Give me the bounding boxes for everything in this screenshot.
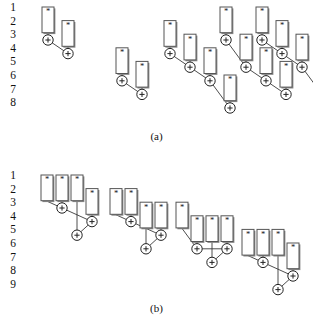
- mul-box-label: *: [225, 215, 229, 225]
- mul-box-label: *: [168, 20, 172, 30]
- mul-box-label: *: [46, 6, 50, 16]
- mul-box-label: *: [244, 34, 248, 44]
- panel-a-diagram: ****************: [0, 0, 313, 130]
- mul-box-label: *: [60, 174, 64, 184]
- panel-b-caption: (b): [0, 302, 313, 314]
- tree-b4: ****: [242, 229, 300, 295]
- mul-box-label: *: [129, 188, 133, 198]
- panel-b: 123456789 **************** (b): [0, 168, 313, 335]
- mul-box-label: *: [195, 215, 199, 225]
- mul-box-label: *: [90, 188, 94, 198]
- mul-box-label: *: [261, 229, 265, 239]
- tree-b3: ****: [176, 202, 234, 268]
- panel-a-caption: (a): [0, 130, 313, 142]
- mul-box-label: *: [280, 20, 284, 30]
- tree-b2: ****: [110, 188, 168, 254]
- mul-box-label: *: [180, 202, 184, 212]
- mul-box-label: *: [120, 47, 124, 57]
- mul-box-label: *: [45, 174, 49, 184]
- mul-box-label: *: [276, 229, 280, 239]
- mul-box-label: *: [208, 47, 212, 57]
- tree-a1: **: [42, 6, 75, 58]
- mul-box-label: *: [224, 6, 228, 16]
- mul-box-label: *: [291, 242, 295, 252]
- mul-box-label: *: [114, 188, 118, 198]
- tree-b1: ****: [41, 174, 99, 240]
- mul-box-label: *: [159, 202, 163, 212]
- mul-box-label: *: [260, 6, 264, 16]
- mul-box-label: *: [75, 174, 79, 184]
- tree-a2: **: [116, 47, 149, 99]
- mul-box-label: *: [300, 34, 304, 44]
- mul-box-label: *: [284, 61, 288, 71]
- mul-box-label: *: [228, 74, 232, 84]
- mul-box-label: *: [66, 20, 70, 30]
- mul-box-label: *: [246, 229, 250, 239]
- mul-box-label: *: [140, 61, 144, 71]
- mul-box-label: *: [144, 202, 148, 212]
- mul-box-label: *: [188, 34, 192, 44]
- mul-box-label: *: [210, 215, 214, 225]
- panel-b-diagram: ****************: [0, 168, 313, 303]
- mul-box-label: *: [264, 47, 268, 57]
- panel-a: 12345678 **************** (a): [0, 0, 313, 160]
